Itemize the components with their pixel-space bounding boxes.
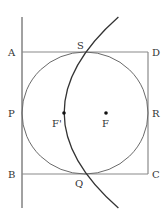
- label-C: C: [152, 169, 160, 180]
- label-F: F: [102, 118, 109, 129]
- label-S: S: [77, 40, 84, 51]
- label-D: D: [152, 47, 160, 58]
- inscribed-circle: [22, 52, 148, 174]
- point-F-prime: [62, 111, 66, 115]
- label-Q: Q: [75, 178, 83, 189]
- label-R: R: [152, 108, 160, 119]
- point-F: [104, 111, 108, 115]
- label-F-prime: F': [52, 118, 62, 129]
- geometry-diagram: A B C D P R S Q F' F: [0, 0, 166, 217]
- label-B: B: [8, 169, 15, 180]
- label-A: A: [7, 47, 16, 58]
- label-P: P: [8, 108, 15, 119]
- parabola-curve: [64, 17, 118, 208]
